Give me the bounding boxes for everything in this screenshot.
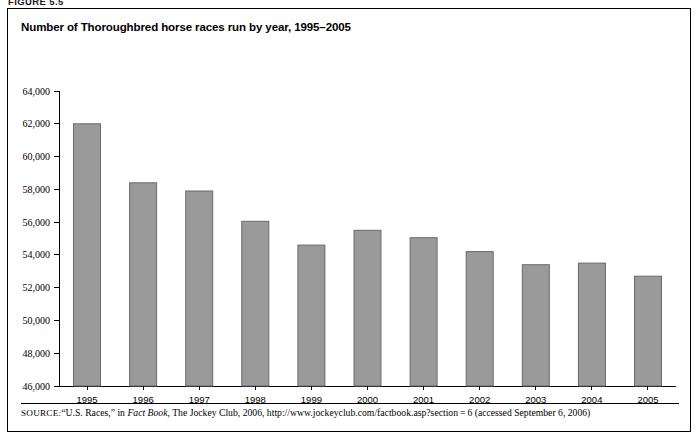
bar-group: 1998 — [242, 221, 269, 405]
bar-1997 — [186, 191, 213, 386]
y-tick-label: 62,000 — [23, 118, 51, 129]
source-text-part1: “U.S. Races,” in — [61, 407, 127, 418]
bar-1995 — [74, 124, 101, 386]
bar-group: 2004 — [578, 263, 605, 405]
y-tick-label: 46,000 — [23, 381, 51, 392]
source-note: SOURCE:“U.S. Races,” in Fact Book, The J… — [21, 407, 681, 419]
y-tick-label: 56,000 — [23, 217, 51, 228]
y-tick-label: 54,000 — [23, 249, 51, 260]
bar-group: 1996 — [130, 183, 157, 405]
bar-2004 — [578, 263, 605, 386]
bar-group: 1997 — [186, 191, 213, 405]
bar-group: 2005 — [635, 276, 662, 405]
figure-frame: Number of Thoroughbred horse races run b… — [7, 8, 691, 432]
bar-2005 — [635, 276, 662, 386]
source-label: SOURCE: — [21, 408, 61, 418]
bar-group: 2001 — [410, 238, 437, 405]
source-divider — [21, 403, 679, 404]
bar-2000 — [354, 230, 381, 386]
y-tick-label: 50,000 — [23, 315, 51, 326]
bar-1996 — [130, 183, 157, 386]
bar-group: 1995 — [74, 124, 101, 405]
source-text-part2: , The Jockey Club, 2006, http://www.jock… — [167, 407, 590, 418]
bar-2002 — [466, 252, 493, 386]
bar-group: 2000 — [354, 230, 381, 405]
bar-1998 — [242, 221, 269, 386]
y-tick-label: 60,000 — [23, 151, 51, 162]
bar-group: 2003 — [522, 265, 549, 405]
bar-chart: 46,00048,00050,00052,00054,00056,00058,0… — [8, 9, 692, 433]
source-publication-title: Fact Book — [127, 407, 167, 418]
bar-1999 — [298, 245, 325, 386]
figure-root: FIGURE 5.5 Number of Thoroughbred horse … — [0, 0, 699, 443]
bar-2003 — [522, 265, 549, 386]
y-tick-label: 58,000 — [23, 184, 51, 195]
y-tick-label: 64,000 — [23, 86, 51, 97]
bar-2001 — [410, 238, 437, 386]
bar-group: 1999 — [298, 245, 325, 405]
plot-area: 46,00048,00050,00052,00054,00056,00058,0… — [8, 9, 692, 433]
figure-number-caption: FIGURE 5.5 — [8, 0, 64, 6]
y-tick-label: 52,000 — [23, 282, 51, 293]
bar-group: 2002 — [466, 252, 493, 405]
y-tick-label: 48,000 — [23, 348, 51, 359]
